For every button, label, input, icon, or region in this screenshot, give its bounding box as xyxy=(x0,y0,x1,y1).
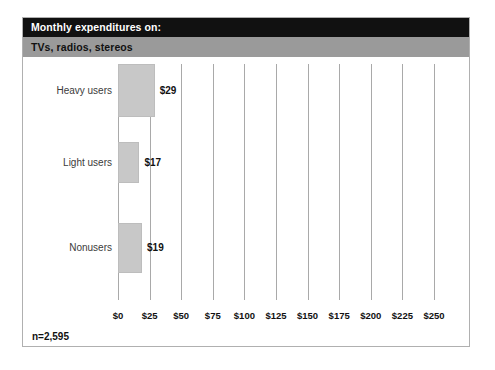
x-tick-label: $175 xyxy=(329,310,350,321)
x-tick-label: $200 xyxy=(360,310,381,321)
chart-subtitle-band: TVs, radios, stereos xyxy=(23,37,469,57)
gridline xyxy=(244,64,245,300)
x-tick-label: $75 xyxy=(205,310,221,321)
bar-value-label: $17 xyxy=(144,157,161,168)
x-tick-label: $150 xyxy=(297,310,318,321)
x-tick-label: $50 xyxy=(173,310,189,321)
x-tick-label: $225 xyxy=(392,310,413,321)
x-tick-label: $125 xyxy=(265,310,286,321)
chart-title-band: Monthly expenditures on: xyxy=(23,18,469,37)
x-tick-label: $25 xyxy=(142,310,158,321)
bar xyxy=(118,223,142,273)
chart-title: Monthly expenditures on: xyxy=(31,21,161,33)
category-label: Light users xyxy=(26,157,112,168)
bar-value-label: $29 xyxy=(160,85,177,96)
category-label: Heavy users xyxy=(26,85,112,96)
gridline xyxy=(402,64,403,300)
x-tick-label: $250 xyxy=(423,310,444,321)
gridline xyxy=(181,64,182,300)
x-tick-label: $100 xyxy=(234,310,255,321)
bar-value-label: $19 xyxy=(147,242,164,253)
gridline xyxy=(213,64,214,300)
gridline xyxy=(276,64,277,300)
gridline xyxy=(308,64,309,300)
gridline xyxy=(339,64,340,300)
chart-subtitle: TVs, radios, stereos xyxy=(31,41,133,53)
bar xyxy=(118,64,155,117)
plot-area: $29$17$19 Heavy usersLight usersNonusers xyxy=(23,57,470,310)
x-tick-label: $0 xyxy=(113,310,124,321)
gridline xyxy=(434,64,435,300)
gridline xyxy=(371,64,372,300)
sample-size-footnote: n=2,595 xyxy=(32,331,69,342)
category-label: Nonusers xyxy=(26,242,112,253)
chart-frame: Monthly expenditures on: TVs, radios, st… xyxy=(22,17,470,347)
bar xyxy=(118,142,139,183)
x-axis-tick-labels: $0$25$50$75$100$125$150$175$200$225$250 xyxy=(23,310,470,328)
